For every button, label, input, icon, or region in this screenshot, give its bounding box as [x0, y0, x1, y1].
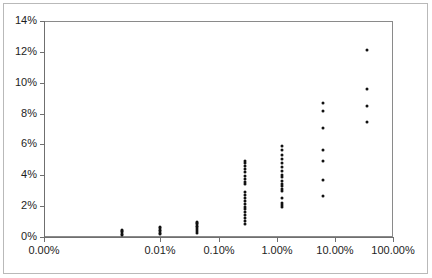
- x-tick-mark: [393, 238, 394, 242]
- data-point: [244, 160, 247, 163]
- data-point: [121, 228, 124, 231]
- y-tick-label: 0%: [21, 231, 37, 242]
- data-point: [365, 48, 368, 51]
- y-tick-label: 14%: [15, 15, 37, 26]
- data-point: [244, 223, 247, 226]
- data-point: [365, 87, 368, 90]
- y-tick-mark: [40, 175, 44, 176]
- data-point: [281, 144, 284, 147]
- y-tick-mark: [40, 114, 44, 115]
- data-point: [281, 170, 284, 173]
- x-tick-mark: [277, 238, 278, 242]
- x-tick-mark: [335, 238, 336, 242]
- data-point: [244, 194, 247, 197]
- x-tick-label: 10.00%: [316, 245, 353, 256]
- y-tick-mark: [40, 83, 44, 84]
- x-tick-mark: [219, 238, 220, 242]
- data-point: [281, 157, 284, 160]
- data-point: [244, 165, 247, 168]
- data-point: [365, 120, 368, 123]
- data-point: [158, 225, 161, 228]
- data-point: [244, 177, 247, 180]
- plot-area: [44, 21, 393, 237]
- y-tick-label: 10%: [15, 77, 37, 88]
- data-point: [244, 168, 247, 171]
- data-point: [244, 196, 247, 199]
- data-point: [281, 153, 284, 156]
- data-point: [244, 219, 247, 222]
- y-tick-label: 8%: [21, 108, 37, 119]
- data-point: [281, 166, 284, 169]
- x-tick-label: 0.00%: [28, 245, 59, 256]
- data-point: [281, 185, 284, 188]
- x-tick-mark: [44, 238, 45, 242]
- data-point: [321, 160, 324, 163]
- data-point: [244, 208, 247, 211]
- data-point: [244, 174, 247, 177]
- data-point: [281, 182, 284, 185]
- data-point: [321, 178, 324, 181]
- data-point: [365, 105, 368, 108]
- y-tick-label: 2%: [21, 200, 37, 211]
- data-point: [321, 127, 324, 130]
- x-tick-label: 0.10%: [203, 245, 234, 256]
- data-point: [321, 101, 324, 104]
- y-tick-mark: [40, 144, 44, 145]
- data-point: [244, 211, 247, 214]
- data-point: [244, 199, 247, 202]
- data-point: [281, 149, 284, 152]
- data-point: [244, 170, 247, 173]
- data-point: [244, 205, 247, 208]
- data-point: [244, 183, 247, 186]
- y-tick-mark: [40, 206, 44, 207]
- data-point: [281, 162, 284, 165]
- y-axis-line: [44, 21, 45, 238]
- x-tick-label: 0.01%: [144, 245, 175, 256]
- data-point: [281, 174, 284, 177]
- data-point: [244, 216, 247, 219]
- data-point: [281, 196, 284, 199]
- data-point: [244, 213, 247, 216]
- data-point: [244, 180, 247, 183]
- y-tick-label: 4%: [21, 169, 37, 180]
- x-tick-label: 100.00%: [371, 245, 414, 256]
- data-point: [321, 109, 324, 112]
- data-point: [195, 220, 198, 223]
- data-point: [321, 194, 324, 197]
- y-tick-mark: [40, 21, 44, 22]
- data-point: [244, 202, 247, 205]
- data-point: [321, 149, 324, 152]
- y-tick-mark: [40, 52, 44, 53]
- data-point: [281, 202, 284, 205]
- y-tick-label: 6%: [21, 138, 37, 149]
- data-point: [281, 180, 284, 183]
- y-tick-label: 12%: [15, 46, 37, 57]
- x-tick-mark: [160, 238, 161, 242]
- data-point: [244, 191, 247, 194]
- scatter-chart: 0%2%4%6%8%10%12%14% 0.00%0.01%0.10%1.00%…: [0, 0, 432, 278]
- x-tick-label: 1.00%: [261, 245, 292, 256]
